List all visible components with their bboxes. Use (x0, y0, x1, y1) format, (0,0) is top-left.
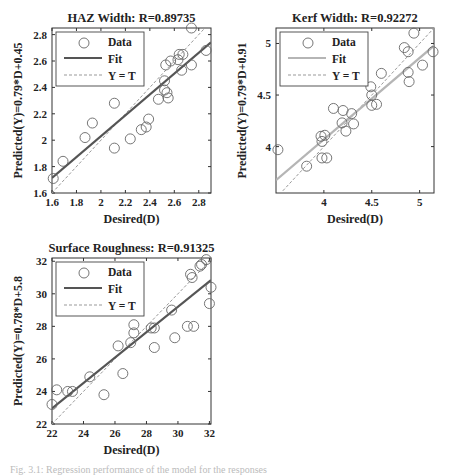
y-tick-label: 28 (36, 320, 48, 332)
x-tick-label: 5 (417, 196, 423, 208)
y-tick-label: 2.4 (33, 81, 47, 93)
y-axis-label: Predicted(Y)=0.78*D+5.8 (11, 276, 25, 406)
legend-label: Data (108, 266, 132, 278)
y-tick-label: 2.6 (33, 55, 47, 67)
chart-title: Surface Roughness: R=0.91325 (49, 241, 215, 255)
legend: DataFitY = T (280, 32, 368, 86)
y-tick-label: 2.8 (33, 29, 47, 41)
y-tick-label: 4 (266, 141, 272, 153)
x-tick-label: 2.2 (119, 196, 133, 208)
chart-1: HAZ Width: R=0.897351.61.822.22.42.62.81… (11, 11, 211, 226)
y-tick-label: 32 (36, 255, 48, 267)
x-tick-label: 30 (172, 427, 184, 439)
legend: DataFitY = T (56, 262, 144, 316)
x-tick-label: 1.8 (70, 196, 84, 208)
x-axis-label: Desired(D) (104, 212, 160, 226)
x-tick-label: 32 (204, 427, 216, 439)
x-tick-label: 4 (321, 196, 327, 208)
y-axis-label: Predicted(Y)=0.79*D+0.45 (11, 42, 25, 178)
y-tick-label: 4.5 (257, 89, 271, 101)
legend-label: Y = T (108, 70, 136, 82)
legend-label: Fit (108, 53, 122, 65)
y-tick-label: 30 (36, 288, 48, 300)
chart-title: Kerf Width: R=0.92272 (292, 11, 418, 25)
x-tick-label: 4.5 (365, 196, 379, 208)
y-tick-label: 2 (42, 134, 48, 146)
x-axis-label: Desired(D) (327, 212, 383, 226)
y-tick-label: 26 (36, 353, 48, 365)
y-tick-label: 5 (266, 37, 272, 49)
figure: HAZ Width: R=0.897351.61.822.22.42.62.81… (0, 0, 449, 475)
legend-label: Y = T (108, 300, 136, 312)
y-tick-label: 1.8 (33, 161, 47, 173)
legend-label: Fit (108, 283, 122, 295)
legend: DataFitY = T (56, 32, 144, 86)
x-tick-label: 22 (47, 427, 59, 439)
x-tick-label: 2.8 (192, 196, 206, 208)
x-tick-label: 1.6 (45, 196, 59, 208)
legend-label: Data (332, 36, 356, 48)
y-tick-label: 24 (36, 385, 48, 397)
y-tick-label: 1.6 (33, 187, 47, 199)
x-tick-label: 2.6 (167, 196, 181, 208)
chart-title: HAZ Width: R=0.89735 (68, 11, 196, 25)
x-tick-label: 24 (78, 427, 90, 439)
y-tick-label: 2.2 (33, 108, 47, 120)
chart-2: Kerf Width: R=0.9227244.5544.55Desired(D… (235, 11, 438, 226)
legend-label: Y = T (332, 70, 360, 82)
figure-caption: Fig. 3.1: Regression performance of the … (10, 464, 267, 475)
chart-3: Surface Roughness: R=0.91325222426283032… (11, 241, 216, 457)
y-axis-label: Predicted(Y)=0.79*D+0.91 (235, 42, 249, 178)
legend-label: Data (108, 36, 132, 48)
y-tick-label: 22 (36, 418, 48, 430)
x-tick-label: 28 (141, 427, 153, 439)
x-tick-label: 2.4 (143, 196, 157, 208)
legend-label: Fit (332, 53, 346, 65)
x-tick-label: 26 (109, 427, 121, 439)
x-axis-label: Desired(D) (104, 443, 160, 457)
x-tick-label: 2 (98, 196, 104, 208)
